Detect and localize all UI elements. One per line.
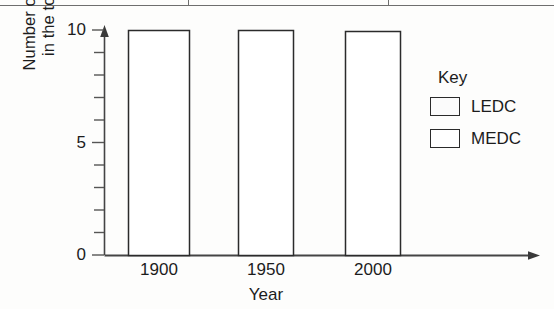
bar-1900 (129, 31, 190, 256)
y-axis-title-line-1: Number of cities (20, 0, 39, 70)
legend-title: Key (438, 68, 546, 87)
y-tick-label-5: 5 (52, 134, 86, 151)
y-axis-title: Number of cities in the top 10 (8, 0, 70, 110)
legend-label-ledc: LEDC (471, 98, 516, 115)
bar-series (129, 31, 401, 256)
legend-item-ledc: LEDC (430, 97, 546, 116)
legend-label-medc: MEDC (471, 130, 521, 147)
x-axis-arrowhead (528, 251, 540, 260)
y-axis-arrowhead (100, 25, 109, 37)
plot-area: 10 5 0 Number of cities in the top 10 19… (0, 0, 554, 309)
y-axis-title-line-2: in the top 10 (39, 0, 58, 56)
chart-figure: 10 5 0 Number of cities in the top 10 19… (0, 0, 554, 309)
legend-swatch-ledc (430, 97, 460, 116)
legend-swatch-medc (430, 129, 460, 148)
y-tick-label-0: 0 (52, 246, 86, 263)
bar-2000 (346, 32, 401, 256)
y-axis-ticks (92, 30, 104, 255)
x-tick-label-1950: 1950 (226, 261, 306, 278)
bar-1950 (239, 31, 294, 256)
x-tick-label-2000: 2000 (333, 261, 413, 278)
y-axis (100, 25, 109, 255)
chart-legend: Key LEDC MEDC (430, 68, 546, 161)
legend-item-medc: MEDC (430, 129, 546, 148)
x-axis-title: Year (206, 286, 326, 303)
x-tick-label-1900: 1900 (119, 261, 199, 278)
